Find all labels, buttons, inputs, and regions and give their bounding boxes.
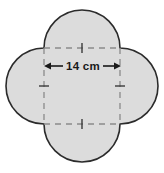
figure-canvas: 14 cm [0,0,164,173]
geometry-figure: 14 cm [0,0,164,173]
dimension-label: 14 cm [66,60,100,72]
